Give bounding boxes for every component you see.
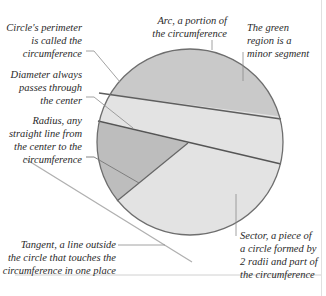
label-circumference: Circle's perimeter is called the circumf…	[2, 21, 82, 60]
label-diameter: Diameter always passes through the cente…	[2, 68, 82, 107]
label-segment: The green region is a minor segment	[247, 21, 326, 60]
label-arc: Arc, a portion of the circumference	[135, 14, 227, 40]
label-sector: Sector, a piece of a circle formed by 2 …	[240, 229, 326, 281]
label-tangent: Tangent, a line outside the circle that …	[0, 238, 116, 277]
leader-circumference	[86, 51, 120, 82]
label-radius: Radius, any straight line from the cente…	[2, 114, 82, 166]
